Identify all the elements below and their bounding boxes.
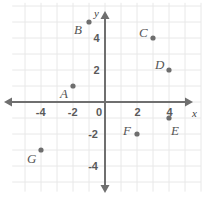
y-tick-label-4: 4 <box>94 33 100 44</box>
chart-background <box>0 0 202 199</box>
point-label-a: A <box>60 87 68 100</box>
x-tick-label-0: 0 <box>96 107 102 118</box>
data-point-d <box>166 67 171 72</box>
x-tick-label-4: 4 <box>166 107 172 118</box>
coordinate-plane-chart <box>0 0 202 199</box>
data-point-b <box>86 19 91 24</box>
point-label-e: E <box>171 124 179 137</box>
point-label-f: F <box>123 124 131 137</box>
data-point-g <box>38 147 43 152</box>
y-tick-label--4: -4 <box>88 161 98 172</box>
y-tick-label--2: -2 <box>88 129 98 140</box>
y-tick-label-2: 2 <box>94 65 100 76</box>
data-point-a <box>70 83 75 88</box>
point-label-d: D <box>155 58 164 71</box>
data-point-c <box>150 35 155 40</box>
data-point-f <box>134 131 139 136</box>
x-tick-label-2: 2 <box>134 107 140 118</box>
point-label-g: G <box>27 152 36 165</box>
point-label-b: B <box>74 23 82 36</box>
x-tick-label--4: -4 <box>36 107 46 118</box>
point-label-c: C <box>139 26 148 39</box>
y-axis-label: y <box>94 8 99 19</box>
x-tick-label--2: -2 <box>68 107 78 118</box>
x-axis-label: x <box>192 108 197 119</box>
